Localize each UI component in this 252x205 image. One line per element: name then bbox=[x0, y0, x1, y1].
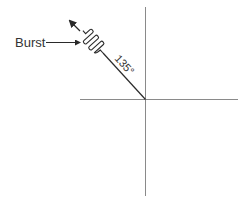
burst-label: Burst bbox=[15, 35, 46, 50]
propagation-arrow bbox=[70, 21, 80, 31]
diagram-canvas: Burst 135° bbox=[0, 0, 252, 205]
angle-label: 135° bbox=[113, 52, 137, 77]
